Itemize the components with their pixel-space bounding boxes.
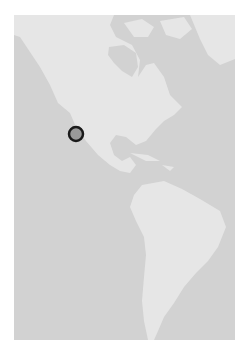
location-marker-icon[interactable] <box>69 127 83 141</box>
map-frame <box>14 15 235 340</box>
map-svg <box>14 15 235 340</box>
